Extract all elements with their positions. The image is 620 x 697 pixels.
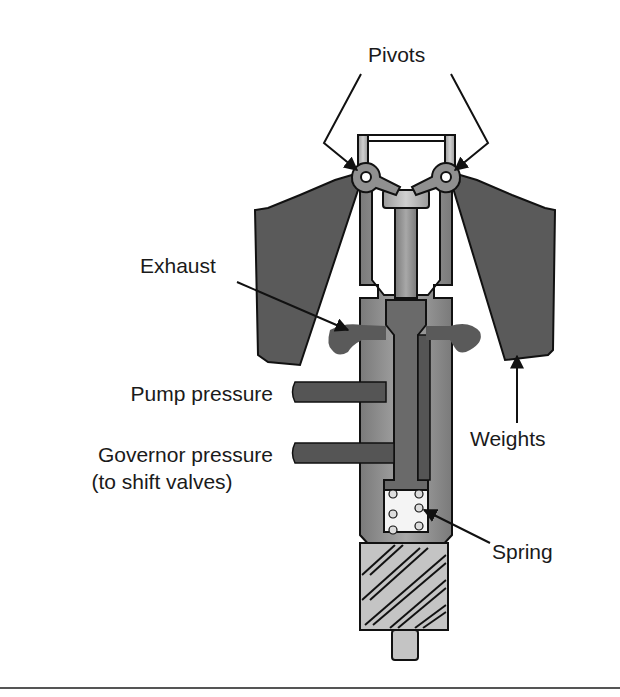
label-pivots: Pivots	[368, 43, 425, 67]
pump-pressure-line	[293, 382, 387, 402]
label-governor-pressure: Governor pressure	[98, 443, 273, 467]
pivots-leader-right	[451, 74, 488, 170]
label-pump-pressure: Pump pressure	[131, 382, 273, 406]
label-spring: Spring	[492, 540, 553, 564]
label-weights: Weights	[470, 427, 545, 451]
gear-stem	[392, 630, 418, 660]
pivot-left	[352, 163, 400, 195]
governor-diagram	[0, 0, 620, 697]
pivot-right	[412, 163, 460, 195]
pivots-leader-left	[324, 74, 361, 170]
label-governor-pressure-sub: (to shift valves)	[72, 470, 252, 494]
label-exhaust: Exhaust	[140, 254, 216, 278]
governor-pressure-line	[293, 443, 395, 463]
